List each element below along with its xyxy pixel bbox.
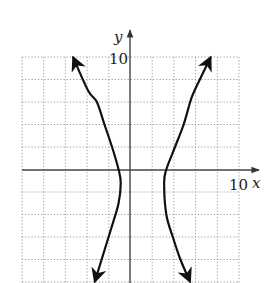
y-tick-label-10: 10 bbox=[109, 50, 128, 68]
x-axis-label: x bbox=[252, 174, 261, 192]
x-tick-label-10: 10 bbox=[229, 176, 248, 194]
hyperbola-graph: y 10 10 x bbox=[0, 0, 269, 283]
y-axis-label: y bbox=[113, 28, 123, 46]
